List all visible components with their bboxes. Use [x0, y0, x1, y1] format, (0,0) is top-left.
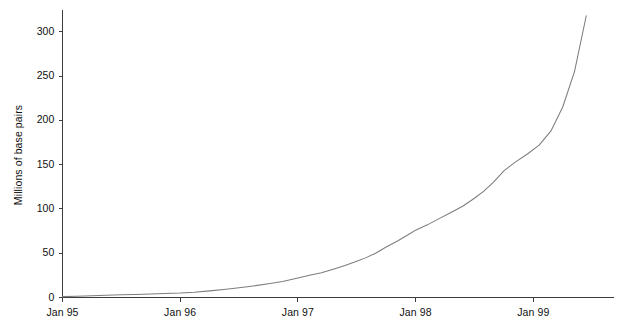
y-tick-label: 50 — [43, 246, 55, 258]
axes — [63, 10, 615, 298]
y-tick-label: 250 — [37, 69, 55, 81]
data-series-group — [63, 16, 587, 297]
y-tick-marks — [59, 32, 63, 298]
x-tick-label: Jan 97 — [272, 306, 324, 318]
y-tick-label: 100 — [37, 202, 55, 214]
y-tick-label: 300 — [37, 25, 55, 37]
y-tick-label: 0 — [49, 291, 55, 303]
data-line — [63, 16, 587, 297]
x-tick-label: Jan 98 — [390, 306, 442, 318]
x-tick-marks — [63, 298, 534, 302]
x-tick-label: Jan 96 — [154, 306, 206, 318]
x-tick-label: Jan 99 — [507, 306, 559, 318]
chart-canvas: Millions of base pairs — [0, 0, 622, 332]
y-axis-label: Millions of base pairs — [12, 105, 24, 205]
y-tick-label: 150 — [37, 158, 55, 170]
x-tick-label: Jan 95 — [37, 306, 89, 318]
y-tick-label: 200 — [37, 113, 55, 125]
line-chart: Millions of base pairs 05010015020025030… — [0, 0, 622, 332]
